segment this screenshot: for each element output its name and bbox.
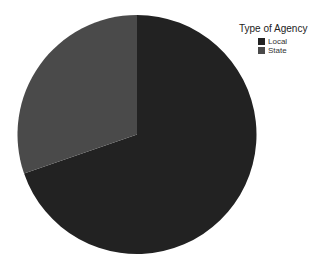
- legend-swatch-local: [258, 38, 265, 45]
- legend-label-local: Local: [268, 37, 287, 46]
- legend-label-state: State: [268, 46, 287, 55]
- legend-items: Local State: [258, 37, 307, 55]
- legend-item-state: State: [258, 46, 307, 55]
- legend-title: Type of Agency: [239, 23, 307, 35]
- legend-item-local: Local: [258, 37, 307, 46]
- legend: Type of Agency Local State: [239, 23, 307, 55]
- legend-swatch-state: [258, 47, 265, 54]
- pie-slices: [17, 15, 256, 254]
